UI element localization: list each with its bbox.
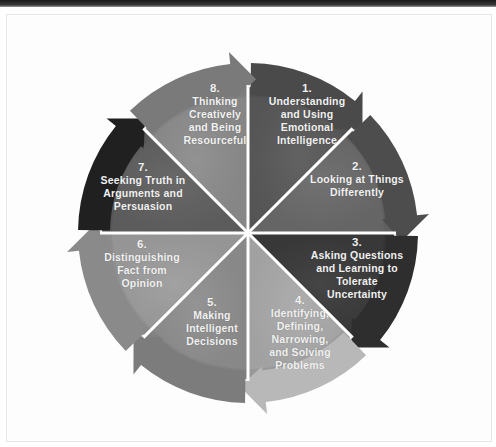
- segment-6-label: 6. Distinguishing Fact from Opinion: [92, 238, 192, 290]
- segment-8-label: 8. Thinking Creatively and Being Resourc…: [180, 82, 250, 147]
- cycle-wheel: [0, 0, 496, 447]
- segment-7-label: 7. Seeking Truth in Arguments and Persua…: [88, 161, 198, 213]
- segment-3-label: 3. Asking Questions and Learning to Tole…: [302, 236, 412, 301]
- segment-5-label: 5. Making Intelligent Decisions: [172, 296, 252, 348]
- segment-2-label: 2. Looking at Things Differently: [302, 160, 412, 199]
- segment-1-label: 1. Understanding and Using Emotional Int…: [262, 82, 352, 147]
- segment-4-label: 4. Identifying, Defining, Narrowing, and…: [262, 294, 338, 372]
